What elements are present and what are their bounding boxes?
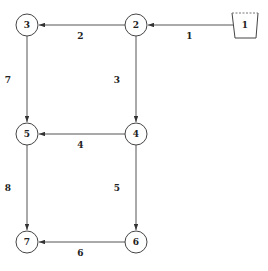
node-label: 3: [24, 20, 30, 30]
node-label: 2: [133, 20, 139, 30]
node-3: 3: [16, 14, 38, 36]
edge-label: 1: [186, 31, 192, 41]
edge-label: 2: [77, 31, 83, 41]
node-label: 5: [24, 129, 30, 139]
network-diagram: 12345678 1234567: [0, 0, 268, 271]
node-2: 2: [125, 14, 147, 36]
node-label: 4: [133, 129, 139, 139]
node-1: 1: [232, 13, 258, 38]
node-5: 5: [16, 123, 38, 145]
edge-label: 3: [114, 75, 120, 85]
edge-label: 5: [114, 183, 120, 193]
edge-label: 6: [77, 248, 83, 258]
node-7: 7: [16, 231, 38, 253]
edge-label: 7: [5, 75, 11, 85]
edge-label: 4: [77, 140, 83, 150]
node-6: 6: [125, 231, 147, 253]
edge-label: 8: [5, 183, 11, 193]
node-label: 6: [133, 237, 139, 247]
node-label: 1: [242, 20, 248, 30]
node-label: 7: [24, 237, 30, 247]
node-4: 4: [125, 123, 147, 145]
